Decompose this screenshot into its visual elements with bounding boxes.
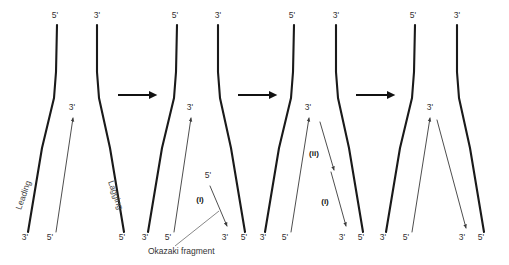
panel-4-labels: 5' 3' 3' 5' 3' 5' 3' — [380, 10, 485, 242]
panel-3-top-label-3prime: 3' — [333, 10, 340, 20]
panel-1-leading-new-strand — [56, 118, 73, 232]
replication-diagram-canvas: 5' 3' 3' 5' 5' 3' Leading Lagging 5' 3' … — [0, 0, 509, 265]
panel-4-top-label-5prime: 5' — [410, 10, 417, 20]
panel-3-leading-template-strand — [265, 25, 294, 232]
panel-3-bottom-label-3prime-leading: 3' — [260, 232, 267, 242]
dna-replication-figure: 5' 3' 3' 5' 5' 3' Leading Lagging 5' 3' … — [0, 0, 509, 265]
panel-3-labels: 5' 3' 3' 5' 3' 5' 3' (ii) (i) — [260, 10, 365, 242]
panel-3-bottom-label-3prime-okazaki: 3' — [339, 232, 346, 242]
panel-2-okazaki-start-label-5prime: 5' — [205, 170, 212, 180]
panel-4-group — [386, 25, 484, 232]
panel-2-top-label-5prime: 5' — [172, 10, 179, 20]
panel-3-group — [265, 25, 363, 232]
panel-4-arrowhead-label-3prime: 3' — [427, 102, 434, 112]
panel-3-arrowhead-label-3prime: 3' — [305, 102, 312, 112]
panel-2-leading-new-strand — [174, 118, 191, 232]
panel-4-lagging-new-strand-joined — [437, 120, 466, 228]
panel-1-top-label-3prime: 3' — [94, 10, 101, 20]
panel-3-okazaki-fragment-2 — [320, 122, 334, 170]
panel-2-okazaki-leader-line — [175, 211, 219, 246]
panel-2-top-label-3prime: 3' — [215, 10, 222, 20]
panel-1-leading-strand-name: Leading — [14, 179, 33, 211]
panel-2-step-label-i: (i) — [196, 195, 204, 204]
panel-1-bottom-label-5prime-new: 5' — [47, 232, 54, 242]
okazaki-fragment-caption: Okazaki fragment — [148, 246, 215, 256]
panel-1-top-label-5prime: 5' — [52, 10, 59, 20]
panel-1-bottom-label-3prime-leading: 3' — [22, 232, 29, 242]
panel-4-bottom-label-3prime-leading: 3' — [380, 232, 387, 242]
panel-3-leading-new-strand — [291, 118, 309, 232]
panel-2-labels: 5' 3' 3' 5' 3' 5' 3' 5' (i) Okazaki frag… — [142, 10, 248, 256]
panel-2-group — [148, 25, 245, 246]
panel-1-labels: 5' 3' 3' 5' 5' 3' Leading Lagging — [14, 10, 126, 242]
panel-4-leading-new-strand — [412, 118, 430, 232]
panel-4-bottom-label-5prime-new: 5' — [403, 232, 410, 242]
panel-4-bottom-label-3prime-lagging-new: 3' — [459, 232, 466, 242]
panel-1-leading-template-strand — [28, 25, 57, 232]
panel-3-step-label-ii: (ii) — [309, 149, 319, 158]
panel-1-bottom-label-5prime-lagging: 5' — [119, 232, 126, 242]
panel-2-bottom-label-5prime-new: 5' — [165, 232, 172, 242]
panel-3-bottom-label-5prime-new: 5' — [282, 232, 289, 242]
panel-3-step-label-i: (i) — [321, 197, 329, 206]
panel-2-arrowhead-label-3prime: 3' — [187, 102, 194, 112]
panel-2-okazaki-fragment-1 — [210, 186, 227, 226]
panel-3-bottom-label-5prime-lagging: 5' — [358, 232, 365, 242]
panel-4-leading-template-strand — [386, 25, 415, 232]
panel-4-lagging-template-strand — [457, 25, 484, 232]
panel-4-top-label-3prime: 3' — [454, 10, 461, 20]
panel-1-lagging-strand-name: Lagging — [106, 179, 125, 211]
panel-1-arrowhead-label-3prime: 3' — [69, 102, 76, 112]
panel-3-top-label-5prime: 5' — [289, 10, 296, 20]
panel-2-lagging-template-strand — [218, 25, 245, 232]
panel-2-leading-template-strand — [148, 25, 177, 232]
panel-2-bottom-label-3prime-okazaki: 3' — [222, 232, 229, 242]
panel-3-lagging-template-strand — [336, 25, 363, 232]
panel-2-bottom-label-5prime-lagging: 5' — [241, 232, 248, 242]
panel-2-bottom-label-3prime-leading: 3' — [142, 232, 149, 242]
panel-3-okazaki-fragment-1 — [331, 172, 346, 226]
panel-4-bottom-label-5prime-lagging: 5' — [478, 232, 485, 242]
panel-1-group — [28, 25, 124, 232]
